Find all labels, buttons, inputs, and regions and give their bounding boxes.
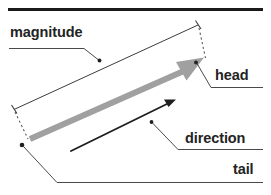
head-leader-diagonal	[197, 64, 211, 88]
label-magnitude: magnitude	[10, 25, 82, 40]
vector-arrow-shaft	[30, 70, 186, 139]
magnitude-leader-dot	[98, 59, 102, 63]
vector-arrow	[30, 58, 204, 140]
direction-arrow-head	[164, 100, 176, 108]
label-head: head	[215, 68, 248, 83]
magnitude-measure-right-cap	[196, 21, 202, 30]
tail-leader	[20, 143, 263, 183]
magnitude-measure-left-cap	[12, 105, 18, 114]
vector-parts-diagram: magnitude head direction tail	[0, 0, 271, 195]
magnitude-leader	[9, 49, 101, 63]
magnitude-extension-tail-dashed	[15, 112, 28, 139]
label-tail: tail	[233, 162, 254, 177]
direction-leader-diagonal	[153, 123, 179, 150]
tail-leader-diagonal	[23, 146, 57, 183]
direction-arrow-shaft	[71, 102, 172, 152]
label-direction: direction	[185, 131, 245, 146]
direction-arrow	[71, 100, 176, 152]
magnitude-extension-head-dashed	[199, 28, 206, 58]
magnitude-leader-diagonal	[84, 49, 98, 60]
